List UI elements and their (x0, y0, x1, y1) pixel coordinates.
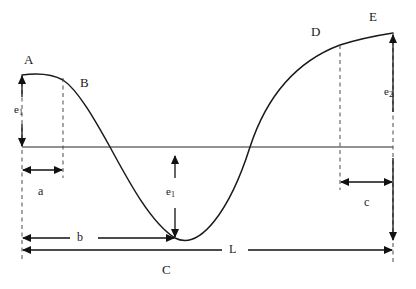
label-point-d: D (311, 25, 320, 38)
curve-figure-svg (0, 0, 416, 289)
label-e1-mid-sub: 1 (171, 190, 175, 199)
label-e1-left-sub: 1 (19, 108, 23, 117)
label-dim-L: L (229, 243, 236, 255)
label-e2-right-sub: 2 (389, 90, 393, 99)
label-dim-C-total: C (162, 263, 171, 276)
label-point-b: B (80, 76, 89, 89)
label-e2-right: e2 (384, 86, 393, 97)
label-point-e: E (369, 10, 377, 23)
label-dim-c: c (364, 196, 369, 208)
label-dim-a: a (38, 185, 43, 197)
label-dim-b: b (77, 231, 83, 243)
label-point-a: A (24, 53, 33, 66)
label-e1-left: e1 (14, 104, 23, 115)
deflection-curve (22, 33, 393, 240)
diagram-canvas: A B D E e1 e1 e2 a b c L C (0, 0, 416, 289)
label-e1-mid: e1 (166, 186, 175, 197)
